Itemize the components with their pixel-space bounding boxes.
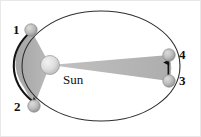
planet-body-3 — [163, 75, 175, 87]
position-label-4: 4 — [179, 48, 186, 61]
sun-label: Sun — [63, 73, 83, 86]
planet-body-1 — [25, 24, 37, 36]
position-label-3: 3 — [179, 74, 186, 87]
planet-body-4 — [163, 49, 175, 61]
position-label-2: 2 — [14, 100, 21, 113]
diagram-canvas — [0, 0, 201, 137]
position-label-1: 1 — [13, 23, 20, 36]
sun-body — [41, 56, 60, 75]
planet-body-2 — [28, 100, 40, 112]
orbital-diagram-figure: 1 2 4 3 Sun — [0, 0, 201, 137]
